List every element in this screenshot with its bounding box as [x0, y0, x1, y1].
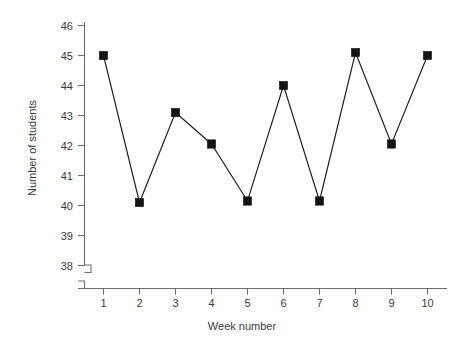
data-point-marker [243, 197, 251, 205]
data-point-marker [351, 48, 359, 56]
x-tick-label: 6 [280, 297, 286, 309]
y-axis-tick-labels: 46 45 44 43 42 41 40 39 38 [61, 20, 73, 272]
y-tick-label: 43 [61, 110, 73, 122]
data-point-marker [279, 81, 287, 89]
y-tick-label: 45 [61, 50, 73, 62]
data-point-marker [315, 197, 323, 205]
x-tick-label: 1 [100, 297, 106, 309]
y-tick-label: 40 [61, 200, 73, 212]
data-point-marker [207, 140, 215, 148]
data-point-marker [135, 198, 143, 206]
line-chart-figure: 46 45 44 43 42 41 40 39 38 [0, 0, 459, 346]
x-tick-label: 2 [136, 297, 142, 309]
x-axis-title: Week number [208, 320, 277, 332]
y-tick-label: 42 [61, 140, 73, 152]
x-tick-label: 10 [421, 297, 433, 309]
y-tick-label: 38 [61, 260, 73, 272]
y-tick-label: 39 [61, 230, 73, 242]
data-point-marker [171, 108, 179, 116]
data-point-marker [387, 140, 395, 148]
x-tick-label: 7 [316, 297, 322, 309]
y-tick-label: 44 [61, 80, 73, 92]
data-point-marker [99, 51, 107, 59]
data-point-marker [423, 51, 431, 59]
x-tick-label: 8 [352, 297, 358, 309]
x-tick-label: 4 [208, 297, 214, 309]
y-tick-label: 46 [61, 20, 73, 32]
x-tick-label: 5 [244, 297, 250, 309]
x-tick-label: 9 [388, 297, 394, 309]
y-tick-label: 41 [61, 170, 73, 182]
chart-canvas: 46 45 44 43 42 41 40 39 38 [0, 0, 459, 346]
x-tick-label: 3 [172, 297, 178, 309]
y-axis-title: Number of students [26, 100, 38, 196]
